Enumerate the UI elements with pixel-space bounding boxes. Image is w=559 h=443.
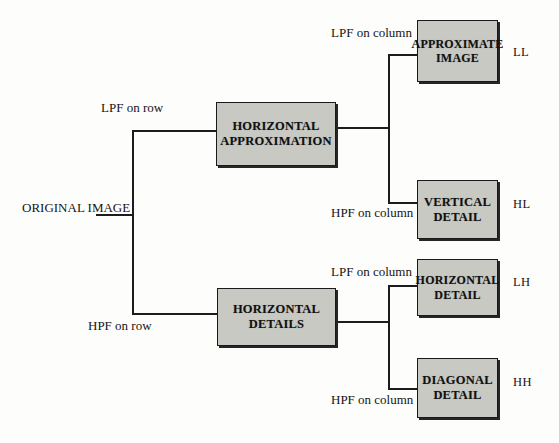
node-horizontal-details: HORIZONTAL DETAILS [217,288,336,346]
node-horizontal-detail-line2: DETAIL [434,288,480,302]
node-original-image-line2: IMAGE [88,200,131,215]
edge-lower-split-trunk [388,285,390,390]
node-diagonal-detail-line1: DIAGONAL [422,373,492,388]
node-original-image-line1: ORIGINAL [22,200,84,215]
edge-trunk-to-horizontal-approximation [132,130,218,132]
edge-to-horizontal-detail [388,285,419,287]
node-horizontal-detail: HORIZONTAL DETAIL [417,259,498,316]
edge-root-split-trunk [132,130,134,315]
node-horizontal-detail-line1: HORIZONTAL [416,273,500,287]
edge-horizontal-details-out [336,321,390,323]
node-horizontal-approximation-line1: HORIZONTAL [232,119,319,134]
subband-tag-hl: HL [513,197,530,212]
edge-label-lpf-on-column-bottom: LPF on column [331,264,412,280]
edge-horizontal-approximation-out [336,127,390,129]
node-horizontal-approximation-line2: APPROXIMATION [220,134,331,149]
edge-label-hpf-on-row: HPF on row [88,318,152,334]
node-approximate-image-line1: APPROXIMATE [412,37,504,51]
node-horizontal-approximation: HORIZONTAL APPROXIMATION [216,102,336,166]
edge-to-diagonal-detail [388,388,419,390]
node-original-image: ORIGINAL IMAGE [22,200,126,216]
node-approximate-image-line2: IMAGE [436,51,479,65]
edge-upper-split-trunk [388,54,390,204]
subband-tag-hh: HH [513,375,532,390]
edge-label-hpf-on-column-bottom: HPF on column [331,392,413,408]
node-vertical-detail: VERTICAL DETAIL [417,180,498,239]
subband-tag-lh: LH [513,275,530,290]
node-diagonal-detail: DIAGONAL DETAIL [417,358,498,418]
dwt-decomposition-diagram: ORIGINAL IMAGE LPF on row HPF on row LPF… [0,0,559,443]
edge-label-hpf-on-column-top: HPF on column [331,205,413,221]
node-approximate-image: APPROXIMATE IMAGE [417,20,498,82]
edge-trunk-to-horizontal-details [132,313,219,315]
node-horizontal-details-line1: HORIZONTAL [233,302,320,317]
node-diagonal-detail-line2: DETAIL [433,388,481,403]
edge-to-approximate-image [388,54,419,56]
edge-label-lpf-on-row: LPF on row [101,100,163,116]
node-vertical-detail-line2: DETAIL [433,210,481,225]
node-vertical-detail-line1: VERTICAL [424,195,491,210]
edge-label-lpf-on-column-top: LPF on column [331,25,412,41]
subband-tag-ll: LL [513,45,529,60]
node-horizontal-details-line2: DETAILS [249,317,304,332]
edge-to-vertical-detail [388,202,419,204]
